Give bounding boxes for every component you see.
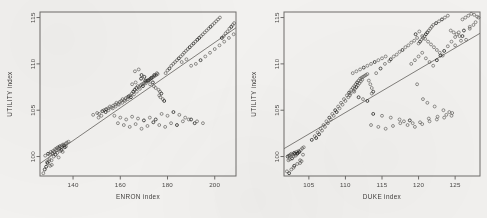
data-point bbox=[419, 121, 422, 124]
data-point bbox=[180, 61, 183, 64]
data-point bbox=[445, 113, 448, 116]
data-point bbox=[438, 20, 441, 23]
data-point bbox=[44, 154, 47, 157]
data-point bbox=[42, 172, 45, 175]
data-point bbox=[461, 35, 464, 38]
data-point bbox=[164, 72, 167, 75]
data-point bbox=[430, 43, 433, 46]
data-point bbox=[448, 111, 451, 114]
data-point bbox=[57, 156, 60, 159]
data-point bbox=[122, 124, 125, 127]
data-point bbox=[464, 16, 467, 19]
data-point bbox=[435, 49, 438, 52]
data-point bbox=[178, 113, 181, 116]
data-point bbox=[140, 77, 143, 80]
data-point bbox=[474, 21, 477, 24]
data-point bbox=[410, 41, 413, 44]
data-point bbox=[449, 29, 452, 32]
data-point bbox=[296, 163, 299, 166]
data-point bbox=[413, 59, 416, 62]
y-tick-label: 115 bbox=[29, 12, 36, 23]
data-point bbox=[226, 30, 229, 33]
data-point bbox=[154, 118, 157, 121]
y-axis-title: UTILITY index bbox=[6, 71, 13, 117]
x-tick-label: 115 bbox=[377, 181, 388, 188]
data-point bbox=[446, 45, 449, 48]
y-tick-label: 105 bbox=[273, 104, 280, 115]
data-point bbox=[411, 122, 414, 125]
data-point bbox=[367, 79, 370, 82]
data-point bbox=[213, 48, 216, 51]
data-point bbox=[421, 51, 424, 54]
data-point bbox=[151, 81, 154, 84]
data-point bbox=[377, 125, 380, 128]
data-point bbox=[395, 53, 398, 56]
data-point bbox=[410, 62, 413, 65]
data-point bbox=[370, 87, 373, 90]
data-point bbox=[416, 36, 419, 39]
data-point bbox=[436, 115, 439, 118]
data-point bbox=[142, 119, 145, 122]
data-point bbox=[134, 123, 137, 126]
data-point bbox=[432, 46, 435, 49]
data-point bbox=[113, 114, 116, 117]
data-point bbox=[404, 46, 407, 49]
data-point bbox=[172, 111, 175, 114]
plot-canvas-right: 105110115120125100105110115DUKE indexUTI… bbox=[244, 0, 487, 218]
y-axis-title: UTILITY index bbox=[250, 71, 257, 117]
y-tick-label: 105 bbox=[29, 104, 36, 115]
data-point bbox=[370, 124, 373, 127]
data-point bbox=[218, 16, 221, 19]
data-point bbox=[302, 153, 305, 156]
data-point bbox=[473, 13, 476, 16]
data-point bbox=[137, 117, 140, 120]
data-point bbox=[140, 127, 143, 130]
data-point bbox=[427, 117, 430, 120]
data-point bbox=[181, 120, 184, 123]
data-point bbox=[472, 24, 475, 27]
data-point bbox=[450, 114, 453, 117]
data-point bbox=[435, 22, 438, 25]
data-point bbox=[164, 125, 167, 128]
data-point bbox=[460, 39, 463, 42]
data-point bbox=[293, 164, 296, 167]
data-point bbox=[168, 67, 171, 70]
x-tick-label: 105 bbox=[303, 181, 314, 188]
data-point bbox=[446, 14, 449, 17]
data-point bbox=[190, 64, 193, 67]
data-point bbox=[450, 40, 453, 43]
x-tick-label: 140 bbox=[67, 181, 78, 188]
data-point bbox=[146, 125, 149, 128]
data-point bbox=[443, 116, 446, 119]
data-point bbox=[359, 68, 362, 71]
data-point bbox=[149, 83, 152, 86]
plot-canvas-left: 140160180200100105110115ENRON indexUTILI… bbox=[0, 0, 243, 218]
y-tick-label: 115 bbox=[273, 12, 280, 23]
data-point bbox=[135, 90, 138, 93]
data-point bbox=[399, 122, 402, 125]
panel-enron-vs-utility: 140160180200100105110115ENRON indexUTILI… bbox=[0, 0, 243, 218]
scatter-plot-figure: 140160180200100105110115ENRON indexUTILI… bbox=[0, 0, 487, 218]
data-point bbox=[416, 83, 419, 86]
scatter-points bbox=[285, 12, 480, 174]
data-point bbox=[125, 118, 128, 121]
data-point bbox=[377, 59, 380, 62]
data-point bbox=[375, 72, 378, 75]
data-point bbox=[160, 112, 163, 115]
data-point bbox=[452, 31, 455, 34]
x-axis-title: ENRON index bbox=[116, 193, 160, 200]
data-point bbox=[454, 36, 457, 39]
data-point bbox=[43, 168, 46, 171]
data-point bbox=[432, 64, 435, 67]
data-point bbox=[131, 115, 134, 118]
data-point bbox=[424, 57, 427, 60]
data-point bbox=[54, 153, 57, 156]
data-point bbox=[454, 44, 457, 47]
data-point bbox=[366, 64, 369, 67]
plot-frame bbox=[284, 12, 480, 176]
data-point bbox=[461, 18, 464, 21]
data-point bbox=[119, 116, 122, 119]
data-point bbox=[389, 116, 392, 119]
data-point bbox=[384, 127, 387, 130]
data-point bbox=[398, 118, 401, 121]
